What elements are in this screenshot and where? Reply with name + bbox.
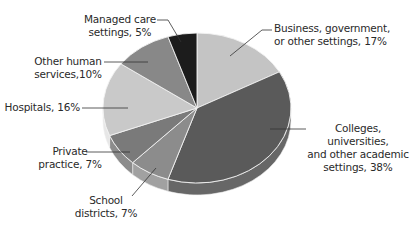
label-other-human: Other human services,10% xyxy=(30,55,106,81)
label-colleges: Colleges, universities, and other academ… xyxy=(303,122,413,174)
label-business: Business, government, or other settings,… xyxy=(274,22,390,48)
pie-slices xyxy=(103,33,291,183)
label-hospitals: Hospitals, 16% xyxy=(0,101,80,114)
label-school: School districts, 7% xyxy=(66,194,146,220)
label-private: Private practice, 7% xyxy=(30,145,110,171)
label-managed: Managed care settings, 5% xyxy=(80,13,160,39)
